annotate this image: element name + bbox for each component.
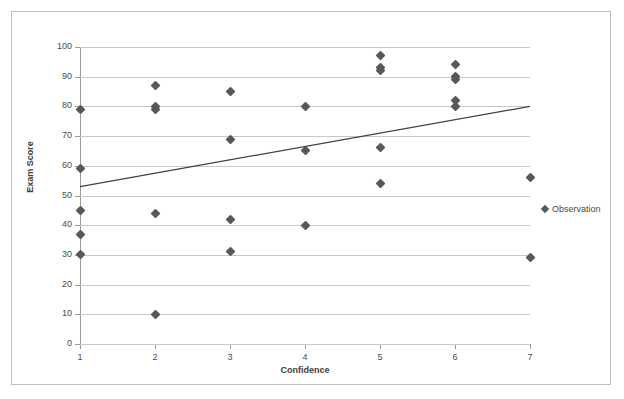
data-point	[225, 87, 235, 97]
data-point	[375, 143, 385, 153]
data-point	[75, 229, 85, 239]
x-tick-label: 3	[215, 352, 245, 362]
data-point	[225, 214, 235, 224]
gridline	[80, 136, 530, 137]
data-point	[150, 309, 160, 319]
legend: Observation	[542, 204, 601, 214]
y-tick-label: 90	[32, 72, 72, 81]
data-point	[525, 173, 535, 183]
gridline	[80, 196, 530, 197]
data-point	[300, 146, 310, 156]
legend-entry-label: Observation	[552, 204, 601, 214]
gridline	[80, 166, 530, 167]
gridline	[80, 255, 530, 256]
data-point	[450, 60, 460, 70]
x-tick-mark	[530, 344, 531, 349]
gridline	[80, 77, 530, 78]
data-point	[75, 250, 85, 260]
y-tick-label: 70	[32, 131, 72, 140]
x-tick-label: 1	[65, 352, 95, 362]
data-point	[375, 51, 385, 61]
x-axis-title: Confidence	[80, 365, 530, 375]
gridline	[80, 344, 530, 345]
y-tick-label: 30	[32, 250, 72, 259]
y-tick-label: 100	[32, 42, 72, 51]
x-tick-label: 5	[365, 352, 395, 362]
x-tick-label: 6	[440, 352, 470, 362]
data-point	[375, 179, 385, 189]
x-tick-label: 2	[140, 352, 170, 362]
scatter-plot-figure: Exam Score Confidence 010203040506070809…	[0, 0, 624, 399]
y-tick-label: 0	[32, 339, 72, 348]
data-point	[150, 208, 160, 218]
data-point	[300, 220, 310, 230]
data-point	[450, 101, 460, 111]
y-tick-label: 50	[32, 191, 72, 200]
gridline	[80, 285, 530, 286]
gridline	[80, 47, 530, 48]
data-point	[300, 101, 310, 111]
diamond-icon	[541, 205, 549, 213]
y-tick-label: 10	[32, 309, 72, 318]
x-tick-label: 7	[515, 352, 545, 362]
y-tick-label: 60	[32, 161, 72, 170]
gridline	[80, 314, 530, 315]
y-tick-label: 20	[32, 280, 72, 289]
y-tick-label: 40	[32, 220, 72, 229]
y-tick-label: 80	[32, 101, 72, 110]
data-point	[75, 205, 85, 215]
data-point	[150, 81, 160, 91]
plot-area	[80, 47, 530, 344]
chart-frame: Exam Score Confidence 010203040506070809…	[11, 11, 611, 385]
x-tick-label: 4	[290, 352, 320, 362]
